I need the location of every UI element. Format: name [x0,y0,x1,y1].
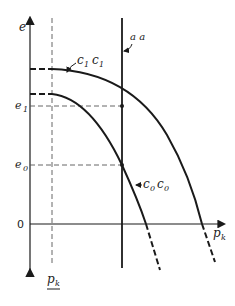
c0-sub-1: 0 [150,184,155,193]
aa-label: a a [130,31,145,42]
c1-sub-2: 1 [99,60,104,69]
pk-axis-sub: k [221,233,226,242]
e1-label: e [15,99,22,112]
e-axis-label: e [19,20,26,34]
c1-curve [52,69,202,224]
pk-reference-label: p [47,272,55,286]
pk-axis-label: p [213,226,221,240]
aa-leader-arrow [124,44,132,51]
e1-sub: 1 [23,105,28,114]
intersection-e0 [120,163,124,167]
pk-reference-sub: k [55,279,60,288]
intersection-e1 [120,104,124,108]
origin-label: 0 [17,218,24,231]
c0-curve [52,94,146,224]
diagram-canvas: e e 1 e 0 0 p k p k a a c 1 c 1 c 0 c 0 [0,0,235,306]
c0-curve-dashed-tail [146,224,160,270]
c0-sub-2: 0 [164,184,169,193]
c1-label-1: c [77,53,84,67]
c1-label-2: c [92,53,99,67]
e0-sub: 0 [23,164,28,173]
c1-sub-1: 1 [84,60,89,69]
c0-label-2: c [157,177,164,191]
c0-label-1: c [143,177,150,191]
e0-label: e [15,158,22,171]
